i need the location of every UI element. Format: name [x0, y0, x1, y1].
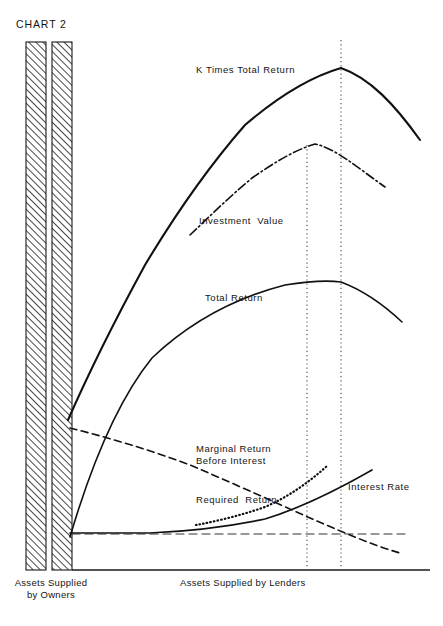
axis-label-assets-supplied-by-owners: Assets Supplied by Owners — [9, 577, 93, 601]
series-label-k-times-total-return: K Times Total Return — [196, 64, 295, 75]
vertical-reference-lines — [307, 40, 341, 570]
owner-block-1 — [26, 42, 46, 570]
owner-asset-blocks — [26, 42, 72, 570]
axis-label-assets-supplied-by-lenders: Assets Supplied by Lenders — [180, 577, 306, 588]
owner-block-2 — [52, 42, 72, 570]
chart-figure: CHART 2 K Times Total Return Investment … — [0, 0, 443, 626]
series-label-investment-value: Investment Value — [199, 215, 284, 226]
series-label-required-return: Required Return — [196, 494, 277, 505]
series-label-interest-rate: Interest Rate — [348, 481, 410, 492]
series-label-marginal-return-before-interest: Marginal Return Before Interest — [196, 443, 271, 466]
curve-k-times-total-return — [68, 68, 420, 420]
chart-number-title: CHART 2 — [16, 18, 67, 30]
chart-canvas — [0, 0, 443, 626]
series-label-total-return: Total Return — [205, 292, 263, 303]
